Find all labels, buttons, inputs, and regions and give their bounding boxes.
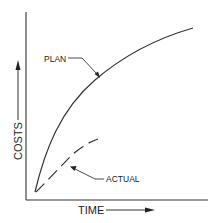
y-axis-label: COSTS [12,122,24,160]
cost-time-diagram: COSTS TIME PLAN ACTUAL [0,0,220,223]
diagram-svg: COSTS TIME PLAN ACTUAL [0,0,220,223]
actual-label: ACTUAL [106,174,140,184]
actual-curve [36,139,98,192]
plan-curve [35,28,193,192]
x-axis-arrow-icon [106,208,155,213]
plan-leader-arrow-icon [68,58,100,78]
y-axis-arrow-icon [16,60,21,120]
x-axis-label: TIME [78,204,104,216]
plan-label: PLAN [44,54,66,64]
actual-leader-arrow-icon [70,166,104,179]
